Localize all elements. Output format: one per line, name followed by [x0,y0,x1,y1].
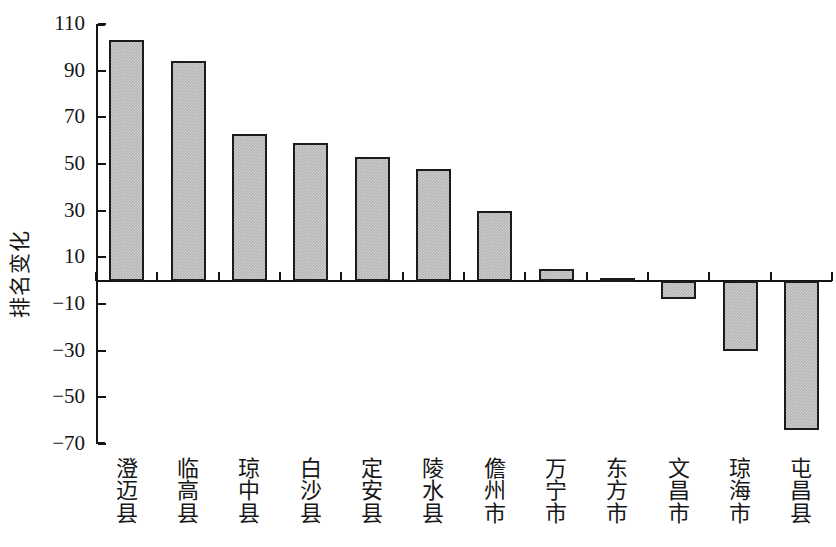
y-tick-mark [98,116,106,118]
y-tick-label: −70 [52,433,85,454]
category-label-char: 宁 [525,480,586,502]
category-label-char: 方 [587,480,648,502]
category-label-char: 海 [709,480,770,502]
x-tick-mark [218,272,220,281]
y-tick-label: 10 [64,246,85,267]
y-tick-label: 30 [64,200,85,221]
category-label-char: 市 [709,503,770,525]
y-tick-label: −30 [52,340,85,361]
bar [109,40,144,280]
y-tick-label: −50 [52,386,85,407]
category-label-char: 县 [341,503,402,525]
x-tick-mark [402,272,404,281]
category-label: 文昌市 [648,458,709,525]
category-label: 屯昌县 [771,458,832,525]
x-tick-mark [340,272,342,281]
category-label: 陵水县 [403,458,464,525]
y-tick-label: 50 [64,153,85,174]
category-label-char: 临 [157,458,218,480]
category-label: 澄迈县 [96,458,157,525]
category-label-char: 中 [219,480,280,502]
category-label-char: 市 [648,503,709,525]
bar [293,143,328,281]
x-tick-mark [524,272,526,281]
category-label-char: 高 [157,480,218,502]
category-label-char: 水 [403,480,464,502]
bar [661,281,696,300]
category-label-char: 昌 [648,480,709,502]
x-tick-mark [95,272,97,281]
bar [171,61,206,280]
category-label: 定安县 [341,458,402,525]
bar [355,157,390,281]
y-tick-mark [98,396,106,398]
bar [723,281,758,351]
category-label: 临高县 [157,458,218,525]
y-tick-label: 90 [64,60,85,81]
bar-chart: 排名变化 1109070503010−10−30−50−70 澄迈县临高县琼中县… [0,0,836,547]
x-tick-mark [586,272,588,281]
y-tick-label: −10 [52,293,85,314]
x-tick-mark [831,272,833,281]
y-tick-mark [98,350,106,352]
category-label: 白沙县 [280,458,341,525]
y-tick-mark [98,303,106,305]
category-label-char: 陵 [403,458,464,480]
category-label-char: 琼 [219,458,280,480]
bar [232,134,267,281]
plot-area: 1109070503010−10−30−50−70 [96,24,832,444]
category-label-char: 州 [464,480,525,502]
x-tick-mark [279,272,281,281]
category-label-char: 安 [341,480,402,502]
x-axis-category-labels: 澄迈县临高县琼中县白沙县定安县陵水县儋州市万宁市东方市文昌市琼海市屯昌县 [96,458,832,544]
x-tick-mark [770,272,772,281]
category-label-char: 县 [219,503,280,525]
category-label-char: 沙 [280,480,341,502]
category-label: 琼中县 [219,458,280,525]
category-label-char: 文 [648,458,709,480]
x-tick-mark [156,272,158,281]
category-label: 琼海市 [709,458,770,525]
x-tick-mark [463,272,465,281]
category-label-char: 万 [525,458,586,480]
bar [600,278,635,282]
category-label-char: 琼 [709,458,770,480]
y-axis-title-text: 排名变化 [3,230,33,318]
bar [477,211,512,281]
y-axis-line [96,24,98,444]
category-label-char: 市 [525,503,586,525]
category-label: 万宁市 [525,458,586,525]
y-tick-mark [98,70,106,72]
y-tick-mark [98,163,106,165]
x-tick-mark [708,272,710,281]
y-axis-title: 排名变化 [0,0,36,547]
bar [784,281,819,430]
category-label-char: 县 [157,503,218,525]
category-label-char: 儋 [464,458,525,480]
category-label-char: 定 [341,458,402,480]
category-label: 儋州市 [464,458,525,525]
category-label-char: 屯 [771,458,832,480]
y-tick-mark [98,210,106,212]
y-tick-label: 110 [54,13,85,34]
y-tick-mark [98,23,106,25]
category-label-char: 县 [280,503,341,525]
category-label-char: 昌 [771,480,832,502]
bar [539,269,574,281]
category-label-char: 县 [771,503,832,525]
category-label-char: 白 [280,458,341,480]
category-label-char: 澄 [96,458,157,480]
bar [416,169,451,281]
category-label-char: 迈 [96,480,157,502]
category-label-char: 县 [96,503,157,525]
category-label-char: 市 [464,503,525,525]
y-tick-label: 70 [64,106,85,127]
category-label: 东方市 [587,458,648,525]
category-label-char: 市 [587,503,648,525]
category-label-char: 县 [403,503,464,525]
x-tick-mark [647,272,649,281]
category-label-char: 东 [587,458,648,480]
y-tick-mark [98,443,106,445]
y-tick-mark [98,256,106,258]
